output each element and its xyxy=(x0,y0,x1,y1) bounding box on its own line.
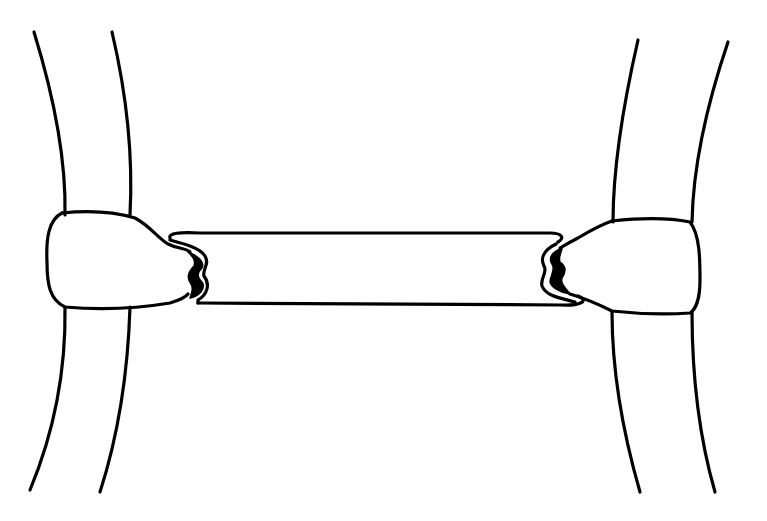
right-junction xyxy=(542,219,700,314)
left-band xyxy=(30,32,131,492)
diagram-canvas xyxy=(0,0,767,521)
connector xyxy=(170,233,583,305)
right-band xyxy=(612,40,728,492)
left-junction xyxy=(47,212,208,309)
